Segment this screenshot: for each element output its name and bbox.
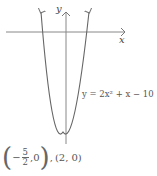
y-axis-label: y bbox=[56, 3, 62, 14]
answer-roots: ( − 5 2 , 0 ) , (2, 0) bbox=[2, 144, 82, 170]
left-paren: ( bbox=[2, 144, 12, 170]
fraction: 5 2 bbox=[22, 148, 29, 167]
x-axis-label: x bbox=[119, 34, 125, 45]
parabola-curve bbox=[41, 12, 89, 134]
equation-label: y = 2x² + x − 10 bbox=[82, 89, 154, 99]
right-paren: ) bbox=[40, 144, 50, 170]
fraction-denominator: 2 bbox=[23, 158, 28, 167]
minus-sign: − bbox=[12, 152, 20, 163]
fraction-numerator: 5 bbox=[22, 148, 29, 158]
second-point: (2, 0) bbox=[55, 152, 82, 163]
comma-2: , bbox=[50, 152, 53, 163]
